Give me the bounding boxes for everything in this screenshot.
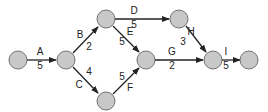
- duration-label-f: 5: [119, 71, 125, 82]
- edge-a: A 5: [27, 46, 56, 71]
- edge-d: D 5: [115, 5, 169, 30]
- edge-f: 5 F: [113, 68, 139, 94]
- activity-label-g: G: [168, 46, 176, 57]
- edge-h: H 3: [180, 26, 206, 52]
- activity-label-f: F: [127, 82, 133, 93]
- duration-label-e: 5: [119, 36, 125, 47]
- duration-label-i: 5: [223, 60, 229, 71]
- node-7: [204, 51, 222, 69]
- duration-label-g: 2: [169, 60, 175, 71]
- duration-label-b: 2: [86, 41, 92, 52]
- activity-label-h: H: [187, 26, 194, 37]
- node-8: [240, 51, 258, 69]
- activity-label-i: I: [225, 46, 228, 57]
- activity-label-e: E: [127, 26, 134, 37]
- edge-i: I 5: [222, 46, 240, 71]
- duration-label-a: 5: [37, 60, 43, 71]
- activity-label-c: C: [75, 79, 82, 90]
- node-6: [170, 10, 188, 28]
- duration-label-h: 3: [180, 36, 186, 47]
- activity-label-d: D: [130, 5, 137, 16]
- activity-network-diagram: A 5 B 2 C 4 D 5 E 5 5 F G 2 H 3 I 5: [0, 0, 268, 112]
- node-3: [97, 10, 115, 28]
- duration-label-c: 4: [86, 66, 92, 77]
- node-4: [97, 92, 115, 110]
- activity-label-a: A: [37, 46, 44, 57]
- activity-label-b: B: [77, 29, 84, 40]
- node-2: [57, 51, 75, 69]
- node-5: [137, 51, 155, 69]
- node-1: [9, 51, 27, 69]
- edge-c: C 4: [73, 66, 98, 93]
- edge-b: B 2: [73, 27, 98, 53]
- edge-g: G 2: [155, 46, 203, 71]
